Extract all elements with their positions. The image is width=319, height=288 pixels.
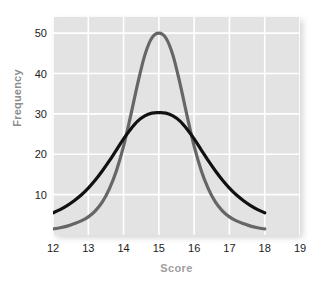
plot-area: [53, 17, 300, 235]
x-axis-title: Score: [53, 262, 300, 274]
x-tick-label: 16: [179, 243, 209, 254]
x-tick-label: 15: [144, 243, 174, 254]
x-tick-label: 12: [38, 243, 68, 254]
y-tick-label: 30: [21, 109, 47, 120]
y-axis-title: Frequency: [11, 43, 23, 153]
y-tick-label: 10: [21, 190, 47, 201]
y-tick-label: 50: [21, 28, 47, 39]
x-tick-label: 14: [109, 243, 139, 254]
x-tick-label: 18: [250, 243, 280, 254]
horizontal-gridlines: [53, 33, 300, 194]
y-tick-label: 40: [21, 69, 47, 80]
y-tick-label: 20: [21, 149, 47, 160]
x-tick-label: 19: [285, 243, 315, 254]
x-tick-label: 17: [214, 243, 244, 254]
vertical-gridlines: [53, 17, 300, 235]
chart-figure: 1020304050 1213141516171819 Frequency Sc…: [0, 0, 319, 288]
x-axis-ticks: 1213141516171819: [53, 243, 300, 257]
x-tick-label: 13: [73, 243, 103, 254]
plot-canvas: [53, 17, 300, 235]
